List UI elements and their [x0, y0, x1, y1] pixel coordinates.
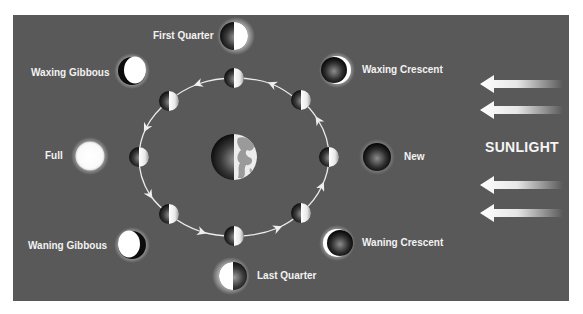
phase-new-icon [359, 139, 395, 175]
phase-full-icon [71, 137, 109, 175]
label-waning-crescent: Waning Crescent [362, 237, 443, 249]
label-full: Full [45, 150, 63, 162]
orbit-moon-upper-left [159, 91, 179, 111]
orbit-moon-right [319, 147, 339, 167]
sunlight-arrow-icon [480, 204, 563, 222]
phase-first-quarter-icon [217, 17, 255, 55]
sunlight-arrow-icon [480, 101, 563, 119]
label-new: New [404, 151, 425, 163]
label-waning-gibbous: Waning Gibbous [28, 240, 107, 252]
orbit-moon-left [129, 147, 149, 167]
label-first-quarter: First Quarter [153, 30, 214, 42]
label-last-quarter: Last Quarter [257, 270, 316, 282]
orbit-moon-bottom [224, 226, 244, 246]
sunlight-arrow-icon [480, 75, 563, 93]
sunlight-label: SUNLIGHT [485, 139, 559, 155]
orbit-moon-upper-right [291, 90, 311, 110]
earth-icon [211, 134, 257, 180]
phase-waning-crescent-icon [319, 225, 355, 261]
orbit-moon-top [224, 68, 244, 88]
phase-last-quarter-icon [212, 257, 250, 295]
label-waxing-crescent: Waxing Crescent [362, 64, 443, 76]
sunlight-arrow-icon [480, 176, 563, 194]
label-waxing-gibbous: Waxing Gibbous [31, 67, 110, 79]
phase-waxing-crescent-icon [319, 52, 355, 88]
phase-waxing-gibbous-icon [114, 53, 150, 89]
moon-phases-diagram [0, 0, 583, 314]
phase-waning-gibbous-icon [114, 227, 150, 263]
orbit-moon-lower-right [291, 203, 311, 223]
orbit-moon-lower-left [159, 204, 179, 224]
